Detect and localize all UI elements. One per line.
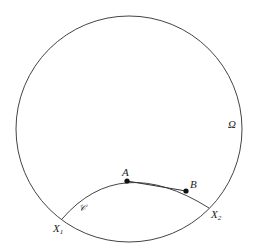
label-b: B [190, 178, 197, 190]
label-x1: X1 [52, 222, 63, 236]
label-x2: X2 [210, 208, 222, 222]
hyperbolic-disk-diagram: Ω A B 𝒞 X1 X2 [0, 0, 254, 250]
geodesic-arc-c [62, 183, 209, 219]
point-a [124, 178, 129, 183]
label-a: A [121, 166, 129, 178]
label-x2-subscript: 2 [218, 214, 222, 222]
disk-omega-boundary [16, 16, 242, 242]
segment-ab [127, 181, 186, 191]
label-omega: Ω [228, 118, 236, 130]
label-x1-subscript: 1 [60, 228, 64, 236]
point-b [183, 188, 188, 193]
label-curve-c: 𝒞 [79, 203, 88, 213]
